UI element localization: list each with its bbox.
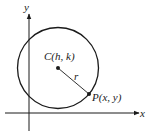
- radius-label: r: [74, 70, 79, 82]
- center-label: C(h, k): [44, 50, 75, 63]
- center-point: [56, 66, 60, 70]
- point-label: P(x, y): [91, 91, 122, 104]
- y-axis-label: y: [23, 1, 29, 13]
- point-p: [87, 92, 91, 96]
- x-axis-label: x: [139, 107, 145, 119]
- circle-diagram: x y C(h, k) r P(x, y): [0, 0, 146, 140]
